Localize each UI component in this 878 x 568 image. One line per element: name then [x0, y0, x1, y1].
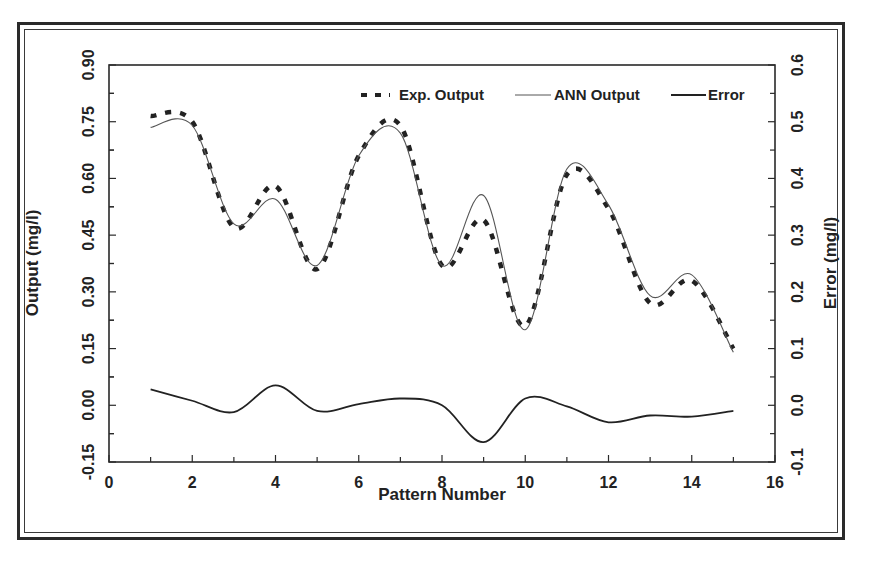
y-tick-label: 0.30: [80, 276, 97, 307]
y-tick-label: 0.75: [80, 106, 97, 137]
y2-tick-label: 0.6: [789, 54, 806, 76]
legend-item-ann-output: ANN Output: [515, 86, 640, 103]
y2-tick-label: -0.1: [789, 448, 806, 476]
y-tick-label: 0.90: [80, 49, 97, 80]
y2-tick-label: 0.5: [789, 110, 806, 132]
y2-tick-label: 0.0: [789, 394, 806, 416]
x-tick-label: 16: [766, 474, 784, 491]
legend-exp-label: Exp. Output: [399, 86, 484, 103]
legend-item-exp-output: Exp. Output: [361, 86, 484, 103]
y-axis-right: -0.10.00.10.20.30.40.50.6: [768, 54, 806, 476]
x-tick-label: 2: [188, 474, 197, 491]
y-axis-title: Output (mg/l): [23, 210, 42, 317]
legend-ann-label: ANN Output: [554, 86, 640, 103]
x-axis-title: Pattern Number: [378, 485, 506, 504]
x-tick-label: 0: [105, 474, 114, 491]
x-tick-label: 12: [600, 474, 618, 491]
y-axis-left: -0.150.000.150.300.450.600.750.90: [80, 49, 116, 480]
y-tick-label: 0.60: [80, 163, 97, 194]
series-error: [151, 385, 734, 442]
y-tick-label: 0.00: [80, 390, 97, 421]
y2-tick-label: 0.1: [789, 337, 806, 359]
series-exp-output: [151, 112, 734, 349]
y2-axis-title: Error (mg/l): [821, 217, 840, 310]
series-ann-output: [151, 119, 734, 353]
x-tick-label: 10: [516, 474, 534, 491]
y-tick-label: -0.15: [80, 444, 97, 481]
legend: Exp. Output ANN Output Error: [361, 86, 745, 103]
line-chart: 0246810121416 -0.150.000.150.300.450.600…: [0, 0, 878, 568]
y2-tick-label: 0.2: [789, 281, 806, 303]
x-tick-label: 14: [683, 474, 701, 491]
y-tick-label: 0.15: [80, 333, 97, 364]
series-layer: [151, 112, 734, 442]
legend-item-error: Error: [671, 86, 745, 103]
y-tick-label: 0.45: [80, 219, 97, 250]
y2-tick-label: 0.4: [789, 167, 806, 189]
y2-tick-label: 0.3: [789, 224, 806, 246]
x-tick-label: 4: [271, 474, 280, 491]
x-tick-label: 6: [354, 474, 363, 491]
legend-error-label: Error: [708, 86, 745, 103]
